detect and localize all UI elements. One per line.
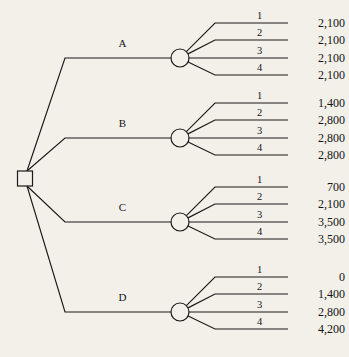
chance-node-a[interactable] xyxy=(171,49,189,67)
payoff-value-c-3: 3,500 xyxy=(318,215,345,229)
state-label-a-3: 3 xyxy=(257,45,262,56)
branch-line-b[interactable] xyxy=(27,138,171,171)
branch-line-c[interactable] xyxy=(27,186,171,222)
state-label-b-2: 2 xyxy=(257,107,262,118)
payoff-value-a-4: 2,100 xyxy=(318,68,345,82)
state-label-d-1: 1 xyxy=(257,264,262,275)
branch-label-group: ABCD xyxy=(119,37,127,303)
outcome-line-b-2[interactable] xyxy=(188,120,288,134)
payoff-value-c-2: 2,100 xyxy=(318,197,345,211)
branch-label-b: B xyxy=(119,117,126,129)
payoff-value-d-4: 4,200 xyxy=(318,322,345,336)
outcome-line-d-4[interactable] xyxy=(188,316,288,329)
state-label-a-4: 4 xyxy=(257,62,263,73)
chance-node-c[interactable] xyxy=(171,213,189,231)
decision-tree-diagram: ABCD 1234123412341234 2,1002,1002,1002,1… xyxy=(0,0,349,357)
state-label-a-1: 1 xyxy=(257,10,262,21)
outcome-line-a-2[interactable] xyxy=(188,40,288,54)
state-label-a-2: 2 xyxy=(257,27,262,38)
state-label-b-1: 1 xyxy=(257,90,262,101)
payoff-value-b-4: 2,800 xyxy=(318,148,345,162)
payoff-value-d-1: 0 xyxy=(339,270,345,284)
outcome-line-c-2[interactable] xyxy=(188,204,288,218)
chance-node-d[interactable] xyxy=(171,303,189,321)
outcome-line-b-4[interactable] xyxy=(188,142,288,155)
branch-line-a[interactable] xyxy=(27,58,171,171)
main-branch-lines xyxy=(27,58,171,312)
state-label-d-4: 4 xyxy=(257,316,263,327)
branch-label-d: D xyxy=(119,291,127,303)
payoff-value-b-1: 1,400 xyxy=(318,96,345,110)
payoff-label-group: 2,1002,1002,1002,1001,4002,8002,8002,800… xyxy=(318,16,345,336)
branch-line-d[interactable] xyxy=(27,186,171,312)
chance-node-b[interactable] xyxy=(171,129,189,147)
branch-label-c: C xyxy=(119,201,126,213)
payoff-value-a-1: 2,100 xyxy=(318,16,345,30)
outcome-branch-lines xyxy=(186,23,288,329)
state-label-d-3: 3 xyxy=(257,299,262,310)
payoff-value-a-2: 2,100 xyxy=(318,33,345,47)
outcome-line-d-2[interactable] xyxy=(188,294,288,308)
state-label-d-2: 2 xyxy=(257,281,262,292)
outcome-line-a-4[interactable] xyxy=(188,62,288,75)
state-label-b-3: 3 xyxy=(257,125,262,136)
state-label-c-3: 3 xyxy=(257,209,262,220)
chance-node-group xyxy=(171,49,189,321)
state-label-b-4: 4 xyxy=(257,142,263,153)
payoff-value-a-3: 2,100 xyxy=(318,51,345,65)
state-label-c-1: 1 xyxy=(257,174,262,185)
payoff-value-c-4: 3,500 xyxy=(318,232,345,246)
payoff-value-b-2: 2,800 xyxy=(318,113,345,127)
payoff-value-d-3: 2,800 xyxy=(318,305,345,319)
payoff-value-b-3: 2,800 xyxy=(318,131,345,145)
payoff-value-d-2: 1,400 xyxy=(318,287,345,301)
payoff-value-c-1: 700 xyxy=(327,180,345,194)
state-label-c-2: 2 xyxy=(257,191,262,202)
state-label-c-4: 4 xyxy=(257,226,263,237)
outcome-line-c-4[interactable] xyxy=(188,226,288,239)
branch-label-a: A xyxy=(119,37,127,49)
root-decision-node[interactable] xyxy=(18,171,33,186)
